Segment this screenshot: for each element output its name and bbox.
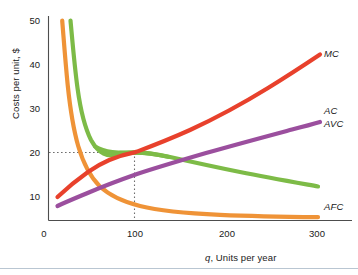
curve-label-afc: AFC bbox=[324, 201, 344, 212]
cost-curves-figure: Costs per unit, $ 50 40 30 20 10 0 100 2… bbox=[0, 0, 358, 275]
curve-label-avc: AVC bbox=[324, 118, 344, 129]
y-axis-title: Costs per unit, $ bbox=[10, 24, 21, 144]
y-tick-label-10: 10 bbox=[18, 191, 40, 202]
x-tick-label-300: 300 bbox=[303, 228, 331, 239]
x-axis-title: q, Units per year bbox=[205, 252, 276, 263]
figure-bottom-rule bbox=[0, 268, 358, 269]
y-tick-label-40: 40 bbox=[18, 59, 40, 70]
mc-curve bbox=[58, 55, 321, 198]
x-axis-title-text: , Units per year bbox=[210, 252, 276, 263]
y-tick-label-0: 0 bbox=[33, 228, 55, 239]
x-tick-label-100: 100 bbox=[121, 228, 149, 239]
y-tick-label-50: 50 bbox=[18, 15, 40, 26]
x-tick-label-200: 200 bbox=[213, 228, 241, 239]
y-tick-label-20: 20 bbox=[18, 147, 40, 158]
curve-label-ac: AC bbox=[324, 105, 338, 116]
curve-label-mc: MC bbox=[324, 48, 339, 59]
y-tick-label-30: 30 bbox=[18, 103, 40, 114]
